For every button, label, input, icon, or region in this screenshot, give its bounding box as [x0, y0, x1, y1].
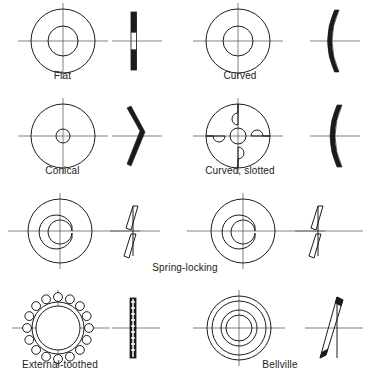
- flat-plan-view: [18, 3, 108, 79]
- bellville-side-view: [305, 297, 363, 358]
- label-conical: Conical: [0, 165, 125, 176]
- conical-plan-view: [18, 98, 108, 174]
- curved-slotted-side-view: [310, 105, 360, 167]
- label-spring-locking: Spring-locking: [120, 262, 250, 273]
- curved-plan-view: [193, 3, 283, 79]
- washer-cell-bellville: Bellville: [185, 287, 369, 385]
- washer-types-figure: Flat Curved: [0, 0, 369, 385]
- label-bellville: Bellville: [225, 359, 335, 370]
- washer-cell-conical: Conical: [0, 95, 185, 190]
- washer-cell-curved: Curved: [185, 0, 369, 95]
- bellville-washer-drawing: [185, 287, 369, 385]
- label-external-toothed: External-toothed: [0, 359, 120, 370]
- washer-cell-curved-slotted: Curved, slotted: [185, 95, 369, 190]
- label-flat: Flat: [0, 70, 125, 81]
- curved-slotted-plan-view: [193, 98, 283, 174]
- curved-side-view: [310, 10, 360, 72]
- washer-cell-external-toothed: External-toothed: [0, 287, 185, 385]
- external-toothed-washer-drawing: [0, 287, 185, 385]
- label-curved: Curved: [195, 70, 285, 81]
- flat-side-view: [112, 12, 162, 70]
- spring-locking-right-side-view: [295, 206, 363, 258]
- external-toothed-side-view: [112, 298, 160, 358]
- spring-locking-left-side-view: [110, 206, 160, 258]
- washer-cell-flat: Flat: [0, 0, 185, 95]
- conical-side-view: [112, 106, 162, 166]
- label-curved-slotted: Curved, slotted: [185, 165, 295, 176]
- external-toothed-plan-view: [12, 290, 110, 366]
- bellville-plan-view: [193, 290, 285, 366]
